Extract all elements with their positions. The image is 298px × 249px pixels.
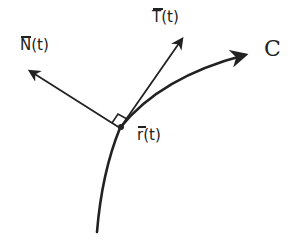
tangent-arg: (t): [161, 8, 179, 26]
normal-letter: N: [20, 36, 31, 54]
normal-arg: (t): [31, 36, 49, 54]
label-position: r(t): [137, 128, 161, 143]
curve-c: [97, 55, 245, 232]
position-arg: (t): [143, 126, 161, 144]
point-r: [118, 124, 124, 130]
curve-letter: C: [264, 36, 281, 61]
label-normal: N(t): [20, 38, 49, 53]
label-tangent: T(t): [152, 10, 179, 25]
tangent-letter: T: [152, 8, 161, 26]
normal-vector-arrow: [30, 71, 120, 128]
position-letter: r: [137, 126, 143, 144]
label-curve: C: [264, 38, 281, 60]
diagram-canvas: N(t) T(t) r(t) C: [0, 0, 298, 249]
